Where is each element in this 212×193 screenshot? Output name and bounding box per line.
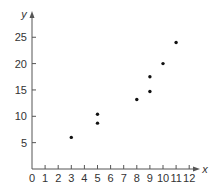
y-tick-label: 15 <box>15 84 27 96</box>
axes: 0123456789101112510152025xy <box>15 8 209 184</box>
y-tick-label: 10 <box>15 110 27 122</box>
x-tick-label: 6 <box>108 172 114 184</box>
y-tick-label: 25 <box>15 31 27 43</box>
x-tick-label: 4 <box>81 172 87 184</box>
y-axis-arrow-icon <box>30 11 35 18</box>
y-tick-label: 5 <box>21 137 27 149</box>
x-tick-label: 5 <box>94 172 100 184</box>
x-tick-label: 12 <box>183 172 195 184</box>
data-point <box>148 90 151 93</box>
data-point <box>70 136 73 139</box>
data-point <box>161 62 164 65</box>
data-point <box>96 121 99 124</box>
x-axis-label: x <box>201 163 208 175</box>
x-tick-label: 10 <box>157 172 169 184</box>
y-axis-label: y <box>20 8 28 20</box>
data-points <box>70 41 178 139</box>
x-tick-label: 7 <box>121 172 127 184</box>
x-tick-label: 1 <box>42 172 48 184</box>
x-axis-arrow-icon <box>193 167 200 172</box>
x-tick-label: 8 <box>134 172 140 184</box>
x-tick-label: 3 <box>68 172 74 184</box>
data-point <box>174 41 177 44</box>
x-tick-label: 0 <box>29 172 35 184</box>
data-point <box>135 98 138 101</box>
x-tick-label: 9 <box>147 172 153 184</box>
data-point <box>148 75 151 78</box>
y-tick-label: 20 <box>15 58 27 70</box>
x-tick-label: 2 <box>55 172 61 184</box>
data-point <box>96 112 99 115</box>
x-tick-label: 11 <box>170 172 181 184</box>
scatter-chart: 0123456789101112510152025xy <box>0 0 212 193</box>
